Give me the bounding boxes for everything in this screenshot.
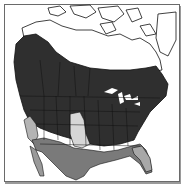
range-map: [0, 0, 184, 187]
